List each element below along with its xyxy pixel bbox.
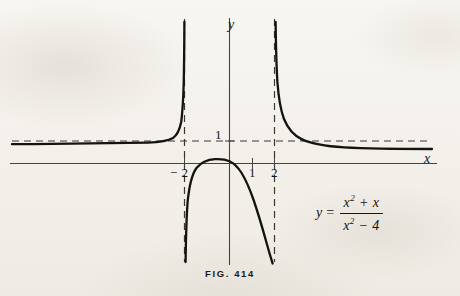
x-axis-label: x [424,152,430,166]
equation-numerator: x2 + x [341,193,383,211]
figure-caption: FIG. 414 [0,268,460,279]
equation-lhs: y [316,205,322,221]
equation-fraction: x2 + x x2 − 4 [340,193,383,233]
y-axis-label: y [228,18,234,32]
denominator-operand: − 4 [359,217,380,232]
denominator-variable: x [343,217,350,232]
curve-right-branch [276,22,432,149]
tick-label-x-2: 2 [271,166,278,179]
denominator-exponent: 2 [350,216,355,226]
tick-label-x-1: 1 [249,166,256,179]
equation-denominator: x2 − 4 [340,216,383,234]
fraction-bar [340,213,383,214]
curve-left-branch [12,22,184,144]
equation-annotation: y = x2 + x x2 − 4 [316,193,383,233]
figure-414-container: y x 1 − 2 1 2 y = x2 + x x2 − 4 FIG. 414 [0,0,460,296]
tick-label-x-neg2: − 2 [170,166,189,179]
numerator-operand: + x [359,195,379,210]
equation-equals-sign: = [326,205,334,221]
numerator-exponent: 2 [350,193,355,203]
function-plot [0,0,460,296]
tick-label-y-1: 1 [215,128,222,141]
